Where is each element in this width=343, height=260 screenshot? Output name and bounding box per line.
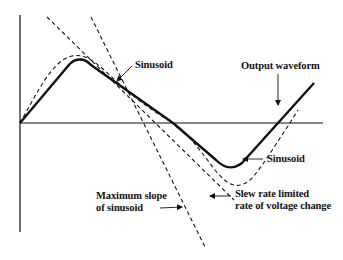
label-slew-line1: Slew rate limited [235,188,309,199]
label-max-slope-line2: of sinusoid [96,202,143,213]
label-output-waveform: Output waveform [241,60,320,71]
leader-max-slope [160,207,182,208]
label-max-slope-line1: Maximum slope [96,190,167,201]
output-waveform-curve [20,59,314,167]
label-slew-line2: rate of voltage change [235,200,332,211]
label-sinusoid-top: Sinusoid [135,59,173,70]
slew-rate-tangent-line [47,17,234,200]
label-sinusoid-right: Sinusoid [267,153,305,164]
slew-rate-diagram: Sinusoid Output waveform Sinusoid Maximu… [0,0,343,260]
